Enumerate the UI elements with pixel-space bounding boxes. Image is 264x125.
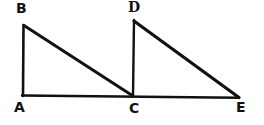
segment-de	[134, 21, 239, 98]
vertex-label-a: A	[14, 100, 25, 114]
vertex-label-c: C	[129, 101, 139, 115]
segment-bc	[24, 26, 133, 97]
segment-ab	[23, 25, 24, 96]
vertex-label-e: E	[236, 100, 246, 114]
geometry-figure-canvas: B D A C E	[0, 0, 264, 125]
vertex-label-b: B	[16, 1, 27, 15]
segment-ae-baseline	[22, 96, 239, 98]
vertex-label-d: D	[128, 0, 140, 14]
segment-cd	[133, 20, 134, 97]
